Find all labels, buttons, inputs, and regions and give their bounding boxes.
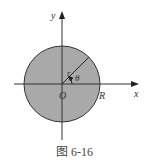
- y-axis-label: y: [50, 10, 56, 21]
- radius-R-label: R: [98, 90, 105, 101]
- x-axis-label: x: [133, 88, 139, 99]
- r-label: r: [67, 68, 71, 78]
- theta-label: θ: [75, 73, 80, 83]
- origin-label: O: [59, 90, 66, 101]
- polar-disk-figure: y x O R r θ 图 6-16: [0, 0, 149, 166]
- figure-caption: 图 6-16: [0, 142, 149, 160]
